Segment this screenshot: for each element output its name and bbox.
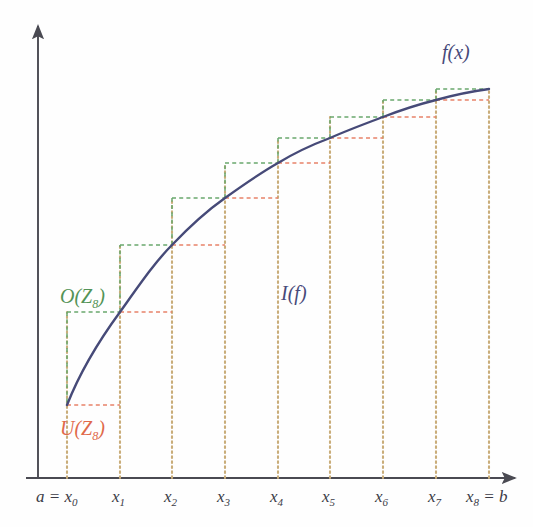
tick-prefix: x [322, 487, 330, 506]
function-label: f(x) [442, 42, 470, 62]
axes-group [26, 26, 515, 478]
lower-sum-label: U(Z8) [60, 418, 105, 442]
tick-prefix: a = x [36, 487, 72, 506]
upper-sum-label-close: ) [98, 285, 105, 307]
riemann-sum-figure: f(x) I(f) O(Z8) U(Z8) a = x0 x1 x2 x3 x4… [0, 0, 533, 527]
integral-label: I(f) [281, 283, 307, 303]
tick-label-x1: x1 [112, 488, 125, 508]
tick-sub: 2 [172, 496, 178, 508]
tick-sub: 5 [330, 496, 336, 508]
tick-prefix: x [466, 487, 474, 506]
tick-label-x0: a = x0 [36, 488, 78, 508]
tick-label-x3: x3 [217, 488, 230, 508]
tick-label-x7: x7 [428, 488, 441, 508]
tick-sub: 6 [383, 496, 389, 508]
upper-sum-label-text: O(Z [60, 285, 92, 307]
tick-prefix: x [428, 487, 436, 506]
tick-sub: 7 [436, 496, 442, 508]
tick-prefix: x [164, 487, 172, 506]
tick-prefix: x [270, 487, 278, 506]
tick-sub: 4 [278, 496, 284, 508]
upper-sum-label: O(Z8) [60, 286, 105, 310]
lower-sum-label-text: U(Z [60, 417, 92, 439]
figure-canvas [0, 0, 533, 527]
tick-label-x6: x6 [375, 488, 388, 508]
tick-label-x4: x4 [270, 488, 283, 508]
tick-prefix: x [112, 487, 120, 506]
tick-sub: 0 [72, 496, 78, 508]
tick-label-x2: x2 [164, 488, 177, 508]
tick-prefix: x [217, 487, 225, 506]
tick-label-x5: x5 [322, 488, 335, 508]
tick-sub: 3 [225, 496, 231, 508]
tick-prefix: x [375, 487, 383, 506]
lower-sum-label-close: ) [98, 417, 105, 439]
tick-suffix: = b [479, 487, 507, 506]
tick-label-x8: x8 = b [466, 488, 508, 508]
tick-sub: 1 [120, 496, 126, 508]
